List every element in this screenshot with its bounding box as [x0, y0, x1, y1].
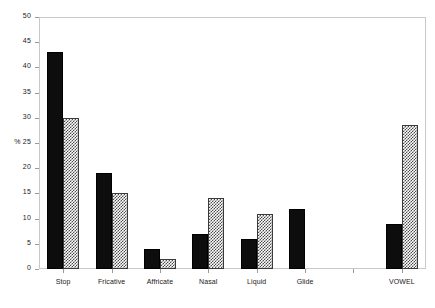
x-tick-nasal: Nasal [184, 269, 232, 305]
x-tick-label: Glide [281, 278, 329, 285]
y-tick-label: % 25 [14, 138, 31, 145]
bar-vowel-series-b [402, 125, 418, 269]
x-tick-mark [112, 269, 113, 273]
x-tick-liquid: Liquid [233, 269, 281, 305]
x-tick-mark [160, 269, 161, 273]
y-tick-label: 45 [23, 37, 31, 44]
x-tick-label: Fricative [87, 278, 135, 285]
x-tick-mark [353, 269, 354, 273]
x-tick-mark [208, 269, 209, 273]
bar-affricate-series-a [144, 249, 160, 269]
bar-glide-series-a [289, 209, 305, 269]
y-tick-label: 5 [27, 239, 31, 246]
x-tick-stop: Stop [39, 269, 87, 305]
y-tick-label: 20 [23, 163, 31, 170]
bar-stop-series-b [63, 118, 79, 269]
bar-stop-series-a [47, 52, 63, 269]
x-tick-mark [305, 269, 306, 273]
x-tick-mark [402, 269, 403, 273]
bar-fricative-series-b [112, 193, 128, 269]
x-tick-fricative: Fricative [87, 269, 135, 305]
y-tick-label: 50 [23, 12, 31, 19]
x-tick-empty [329, 269, 377, 305]
y-axis: 05101520% 253035404550 [0, 17, 39, 269]
bars-layer [39, 17, 426, 269]
bar-vowel-series-a [386, 224, 402, 269]
bar-nasal-series-b [208, 198, 224, 269]
x-tick-label: Liquid [233, 278, 281, 285]
bar-affricate-series-b [160, 259, 176, 269]
y-tick-label: 30 [23, 113, 31, 120]
y-tick-label: 35 [23, 88, 31, 95]
y-tick-label: 15 [23, 188, 31, 195]
y-tick-label: 0 [27, 264, 31, 271]
bar-nasal-series-a [192, 234, 208, 269]
x-tick-affricate: Affricate [136, 269, 184, 305]
x-tick-label: VOWEL [378, 278, 426, 285]
x-tick-label: Nasal [184, 278, 232, 285]
bar-chart-figure: 05101520% 253035404550 StopFricativeAffr… [0, 0, 435, 308]
x-tick-glide: Glide [281, 269, 329, 305]
x-tick-mark [63, 269, 64, 273]
x-tick-mark [257, 269, 258, 273]
bar-liquid-series-b [257, 214, 273, 269]
x-axis: StopFricativeAffricateNasalLiquidGlideVO… [39, 269, 426, 305]
y-tick-label: 40 [23, 62, 31, 69]
x-tick-vowel: VOWEL [378, 269, 426, 305]
bar-fricative-series-a [96, 173, 112, 269]
x-tick-label: Stop [39, 278, 87, 285]
x-tick-label: Affricate [136, 278, 184, 285]
y-tick-label: 10 [23, 214, 31, 221]
bar-liquid-series-a [241, 239, 257, 269]
